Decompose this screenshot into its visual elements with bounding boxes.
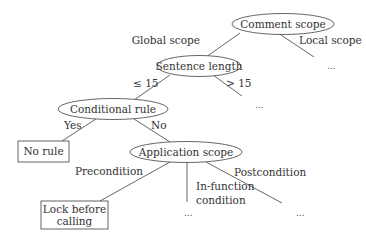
node-label: Conditional rule <box>70 103 156 115</box>
node-no-rule: No rule <box>18 141 69 162</box>
edge-label-local-scope: Local scope <box>299 34 362 46</box>
ellipsis-gt15: ... <box>255 100 264 110</box>
decision-tree-diagram: Comment scope Global scope Local scope .… <box>0 0 366 244</box>
ellipsis-postcondition: ... <box>296 208 305 218</box>
node-lock-before-calling: Lock before calling <box>41 201 108 229</box>
ellipsis-in-function: ... <box>184 208 193 218</box>
node-comment-scope: Comment scope <box>232 14 334 35</box>
edge-label-no: No <box>151 119 167 131</box>
node-application-scope: Application scope <box>130 142 242 163</box>
edge-label-postcondition: Postcondition <box>234 166 307 178</box>
edge-label-in-function-2: condition <box>196 194 246 206</box>
edge-label-gt15: > 15 <box>226 77 252 89</box>
ellipsis-local: ... <box>327 61 336 71</box>
edge-label-le15: ≤ 15 <box>133 77 159 89</box>
edge-label-in-function-1: In-function <box>196 180 255 192</box>
node-label: Application scope <box>138 146 233 158</box>
node-label: Comment scope <box>240 18 325 30</box>
edge-label-precondition: Precondition <box>75 165 143 177</box>
edge-label-yes: Yes <box>63 119 82 131</box>
edge-label-global-scope: Global scope <box>132 34 200 46</box>
node-label: Sentence length <box>156 60 243 72</box>
edge-global-scope <box>206 33 240 57</box>
node-sentence-length: Sentence length <box>156 56 243 77</box>
node-label-line2: calling <box>57 215 93 227</box>
node-label: No rule <box>23 145 63 157</box>
node-conditional-rule: Conditional rule <box>58 99 168 120</box>
node-label-line1: Lock before <box>43 203 106 215</box>
